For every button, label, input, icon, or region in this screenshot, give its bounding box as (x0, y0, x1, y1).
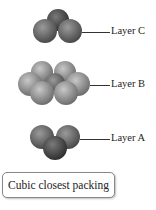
layer-c-leader-line (82, 32, 110, 33)
layer-b-spheres (18, 61, 90, 105)
layer-b-leader-line (90, 85, 110, 86)
layer-a-leader-line (80, 139, 110, 140)
layer-a-spheres (30, 125, 80, 160)
layer-b-label: Layer B (111, 78, 145, 89)
layer-c-spheres (33, 9, 82, 43)
caption-text: Cubic closest packing (8, 179, 109, 191)
layer-a-label: Layer A (111, 132, 145, 143)
caption-box: Cubic closest packing (2, 172, 115, 198)
layer-c-label: Layer C (111, 25, 145, 36)
